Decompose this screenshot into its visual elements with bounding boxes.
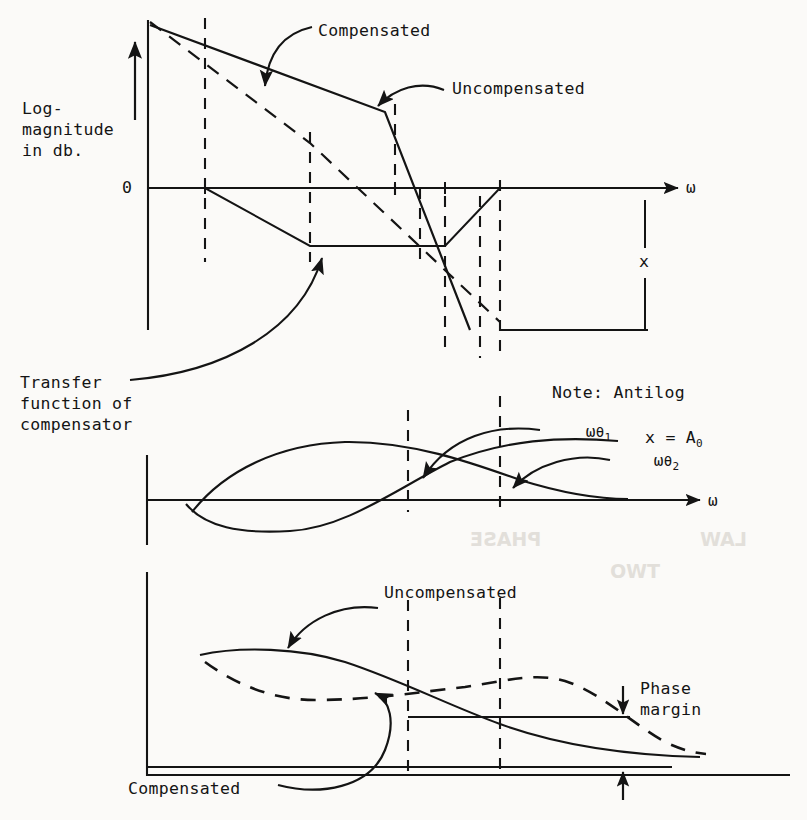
- note-antilog-subscript: 0: [696, 437, 703, 450]
- label-uncompensated-top: Uncompensated: [452, 78, 585, 99]
- leader-omega-theta-1: [423, 429, 540, 478]
- omega-theta-2-index: 2: [672, 460, 679, 473]
- leader-uncompensated-top: [378, 86, 444, 106]
- omega-theta-1-omega: ω: [586, 422, 596, 441]
- series-compensated-magnitude: [150, 22, 500, 322]
- omega-axis-label-mid: ω: [708, 490, 718, 511]
- label-omega-theta-1: ωθ1: [546, 403, 611, 463]
- bot-vertical-dashed-lines: [408, 598, 500, 776]
- label-compensated-bottom: Compensated: [128, 778, 241, 799]
- leader-transfer-function: [130, 258, 322, 380]
- y-axis-label-top: Log- magnitude in db.: [22, 98, 114, 161]
- leader-uncompensated-bottom: [288, 607, 378, 648]
- series-uncompensated-phase: [200, 650, 700, 757]
- label-uncompensated-bottom: Uncompensated: [384, 582, 517, 603]
- x-dimension-label: x: [639, 251, 649, 272]
- note-line-1: Note: Antilog: [552, 382, 685, 403]
- series-compensated-phase: [205, 662, 706, 754]
- x-dimension-bracket: [500, 200, 648, 330]
- label-omega-theta-2: ωθ2: [614, 432, 679, 492]
- label-phase-margin: Phase margin: [640, 678, 701, 720]
- log-magnitude-chart: [130, 18, 678, 380]
- zero-tick-label: 0: [122, 177, 132, 198]
- omega-theta-1-index: 1: [604, 431, 611, 444]
- mid-vertical-dashed-lines: [408, 396, 500, 512]
- series-compensator-transfer-function: [148, 188, 630, 246]
- label-transfer-function: Transfer function of compensator: [20, 372, 133, 435]
- label-compensated-top: Compensated: [318, 20, 431, 41]
- omega-theta-2-omega: ω: [654, 451, 664, 470]
- omega-axis-label-top: ω: [686, 177, 696, 198]
